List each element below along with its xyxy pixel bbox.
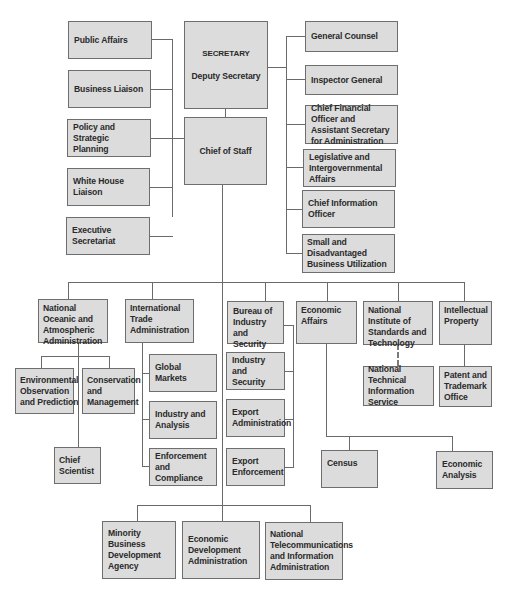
label: International Trade Administration bbox=[130, 303, 189, 335]
connector-line bbox=[41, 356, 42, 368]
label: Business Liaison bbox=[74, 84, 143, 95]
box-nist: National Institute of Standards and Tech… bbox=[363, 301, 433, 345]
box-conservation-management: Conservation and Management bbox=[82, 368, 135, 414]
box-chief-information-officer: Chief Information Officer bbox=[302, 190, 395, 228]
label: Industry and Security bbox=[232, 355, 279, 388]
connector-line bbox=[286, 167, 303, 168]
box-economic-affairs: Economic Affairs bbox=[296, 301, 357, 344]
connector-line bbox=[151, 39, 173, 40]
connector-line bbox=[293, 325, 294, 468]
box-chief-of-staff: Chief of Staff bbox=[184, 117, 267, 185]
box-ntia: National Telecommunications and Informat… bbox=[265, 522, 343, 580]
label: National Institute of Standards and Tech… bbox=[368, 305, 426, 348]
box-general-counsel: General Counsel bbox=[305, 21, 398, 52]
box-legislative-affairs: Legislative and Intergovernmental Affair… bbox=[303, 149, 396, 187]
connector-line bbox=[349, 436, 350, 450]
connector-line bbox=[149, 187, 173, 188]
label: Bureau of Industry and Security bbox=[233, 306, 272, 349]
connector-line bbox=[137, 505, 138, 522]
connector-line bbox=[142, 342, 143, 467]
connector-line bbox=[286, 36, 305, 37]
box-intellectual-property: Intellectual Property bbox=[439, 301, 492, 345]
label: Chief Information Officer bbox=[308, 198, 389, 220]
connector-line bbox=[286, 209, 302, 210]
label: Export Administration bbox=[232, 407, 291, 429]
box-enforcement-compliance: Enforcement and Compliance bbox=[149, 448, 217, 486]
label: Public Affairs bbox=[74, 35, 128, 46]
connector-line bbox=[310, 505, 311, 522]
connector-line bbox=[225, 108, 226, 117]
connector-line bbox=[326, 343, 327, 436]
label: National Oceanic and Atmospheric Adminis… bbox=[43, 303, 102, 346]
label: Chief of Staff bbox=[199, 146, 251, 157]
label: Export Enforcement bbox=[232, 456, 283, 478]
label: Executive Secretariat bbox=[72, 225, 144, 247]
box-eda: Economic Development Administration bbox=[182, 521, 260, 579]
box-export-administration: Export Administration bbox=[226, 399, 285, 437]
box-noaa: National Oceanic and Atmospheric Adminis… bbox=[38, 299, 108, 343]
label: Economic Affairs bbox=[301, 305, 341, 326]
connector-line bbox=[286, 253, 302, 254]
label: Patent and Trademark Office bbox=[444, 370, 487, 403]
deputy-secretary-label: Deputy Secretary bbox=[191, 71, 260, 82]
label: Economic Development Administration bbox=[188, 534, 254, 567]
box-business-liaison: Business Liaison bbox=[68, 70, 151, 108]
label: Policy and Strategic Planning bbox=[73, 122, 145, 155]
connector-line bbox=[286, 124, 305, 125]
box-mbda: Minority Business Development Agency bbox=[102, 521, 176, 579]
connector-line bbox=[285, 371, 294, 372]
box-patent-trademark-office: Patent and Trademark Office bbox=[439, 366, 492, 407]
box-public-affairs: Public Affairs bbox=[68, 21, 152, 59]
box-small-disadvantaged-business: Small and Disadvantaged Business Utiliza… bbox=[302, 234, 395, 273]
connector-line bbox=[327, 282, 328, 301]
label: Environmental Observation and Prediction bbox=[20, 375, 78, 408]
label: Census bbox=[327, 458, 357, 468]
connector-line bbox=[222, 184, 223, 523]
connector-line bbox=[452, 436, 453, 451]
label: White House Liaison bbox=[73, 176, 144, 198]
label: Economic Analysis bbox=[442, 459, 487, 481]
connector-line bbox=[464, 344, 465, 366]
label: National Technical Information Service bbox=[368, 364, 429, 408]
label: National Telecommunications and Informat… bbox=[270, 529, 353, 573]
connector-line bbox=[150, 138, 184, 139]
connector-line bbox=[137, 505, 311, 506]
box-white-house-liaison: White House Liaison bbox=[67, 168, 150, 206]
box-ita: International Trade Administration bbox=[125, 299, 194, 343]
label: Enforcement and Compliance bbox=[155, 451, 211, 484]
connector-line bbox=[68, 282, 465, 283]
label: Global Markets bbox=[155, 362, 211, 384]
label: Intellectual Property bbox=[444, 305, 488, 326]
connector-line bbox=[150, 89, 173, 90]
box-secretary: SECRETARY Deputy Secretary bbox=[184, 21, 268, 109]
connector-line bbox=[285, 467, 294, 468]
connector-line bbox=[152, 282, 153, 299]
box-ntis: National Technical Information Service bbox=[363, 366, 434, 406]
connector-line bbox=[349, 436, 453, 437]
connector-line bbox=[286, 79, 305, 80]
box-export-enforcement: Export Enforcement bbox=[226, 448, 285, 486]
label: General Counsel bbox=[311, 31, 378, 42]
box-bis: Bureau of Industry and Security bbox=[227, 301, 284, 344]
box-executive-secretariat: Executive Secretariat bbox=[66, 217, 150, 255]
box-environmental-observation: Environmental Observation and Prediction bbox=[15, 368, 74, 414]
connector-line bbox=[68, 282, 69, 299]
connector-line bbox=[41, 356, 110, 357]
box-cfo: Chief Financial Officer and Assistant Se… bbox=[305, 105, 398, 144]
connector-line bbox=[267, 67, 287, 68]
connector-line bbox=[464, 282, 465, 301]
box-census: Census bbox=[321, 450, 378, 488]
connector-line bbox=[172, 39, 173, 217]
label: Conservation and Management bbox=[87, 375, 141, 408]
label: Chief Scientist bbox=[59, 455, 96, 477]
label: Legislative and Intergovernmental Affair… bbox=[309, 152, 390, 185]
secretary-label: SECRETARY bbox=[202, 48, 250, 59]
box-inspector-general: Inspector General bbox=[305, 65, 398, 95]
box-economic-analysis: Economic Analysis bbox=[436, 451, 493, 489]
box-policy-strategic-planning: Policy and Strategic Planning bbox=[67, 119, 151, 157]
label: Minority Business Development Agency bbox=[108, 528, 170, 572]
box-industry-security: Industry and Security bbox=[226, 352, 285, 390]
box-industry-analysis: Industry and Analysis bbox=[149, 401, 217, 439]
connector-line bbox=[265, 282, 266, 301]
connector-line bbox=[149, 236, 173, 237]
